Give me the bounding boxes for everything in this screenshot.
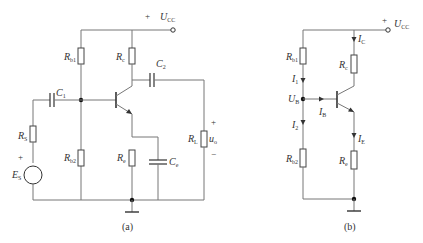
- vcc-label-b: UCC: [394, 18, 409, 30]
- label-rc-a: Rc: [115, 51, 125, 63]
- caption-b: (b): [344, 221, 356, 233]
- label-rb1-b: Rb1: [285, 51, 298, 63]
- circuit-b: [300, 28, 390, 211]
- vcc-plus-a: +: [145, 11, 150, 21]
- label-ub-b: UB: [288, 93, 299, 105]
- arrow-i1: [301, 78, 306, 83]
- resistor-rb2-a: [78, 150, 84, 166]
- vcc-terminal-a: [171, 28, 175, 32]
- label-ic-b: IC: [357, 33, 365, 45]
- resistor-rc-b: [351, 55, 357, 73]
- arrow-i2: [301, 120, 306, 125]
- label-re-b: Re: [338, 155, 348, 167]
- caption-a: (a): [122, 221, 133, 233]
- vcc-plus-b: +: [382, 15, 387, 25]
- uo-minus-a: −: [211, 149, 216, 159]
- resistor-rb1-b: [300, 48, 306, 64]
- label-i2-b: I2: [291, 119, 298, 131]
- arrow-ib: [319, 97, 324, 102]
- resistor-re-b: [351, 151, 357, 169]
- label-rb2-b: Rb2: [285, 153, 298, 165]
- es-plus-a: +: [18, 152, 23, 162]
- resistor-rs-a: [30, 126, 36, 142]
- resistor-rb2-b: [300, 149, 306, 167]
- uo-plus-a: +: [211, 117, 216, 127]
- resistor-rl-a: [201, 131, 207, 147]
- label-rl-a: RL: [187, 133, 198, 145]
- vcc-terminal-b: [386, 28, 390, 32]
- voltage-source-es-a: [24, 166, 42, 184]
- label-i1-b: I1: [291, 73, 298, 85]
- label-ie-b: IE: [357, 133, 365, 145]
- label-rb2-a: Rb2: [63, 152, 76, 164]
- label-c2-a: C2: [156, 58, 166, 70]
- arrow-ie: [352, 133, 357, 138]
- resistor-re-a: [129, 150, 135, 166]
- label-ib-b: IB: [318, 106, 326, 118]
- arrow-ic: [352, 37, 357, 42]
- vcc-label-a: UCC: [160, 11, 175, 23]
- label-es-a: ES: [11, 169, 21, 181]
- resistor-rc-a: [129, 48, 135, 64]
- label-re-a: Re: [116, 152, 126, 164]
- circuit-diagrams: + UCC Rb1 Rc C2 C1 RS + ES Rb2 Re Ce RL …: [0, 0, 423, 243]
- label-ce-a: Ce: [169, 156, 179, 168]
- label-rc-b: Rc: [338, 59, 348, 71]
- label-c1-a: C1: [56, 87, 66, 99]
- resistor-rb1-a: [78, 48, 84, 64]
- label-uo-a: uo: [209, 133, 217, 145]
- label-rs-a: RS: [17, 130, 27, 142]
- label-rb1-a: Rb1: [63, 51, 76, 63]
